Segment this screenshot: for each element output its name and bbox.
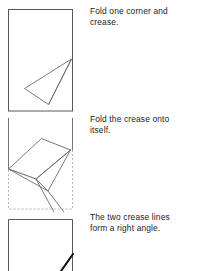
fold-one-corner-figure xyxy=(7,7,77,115)
right-angle-creases-figure xyxy=(7,218,77,271)
fold-crease-onto-itself-figure xyxy=(7,117,77,212)
step-3-caption: The two crease lines form a right angle. xyxy=(90,212,206,233)
step-1-caption: Fold one corner and crease. xyxy=(90,6,206,27)
paper-outline xyxy=(9,220,73,271)
instruction-sheet: Fold one corner and crease. Fold the cre… xyxy=(0,0,210,271)
step-2-caption: Fold the crease onto itself. xyxy=(90,114,206,135)
